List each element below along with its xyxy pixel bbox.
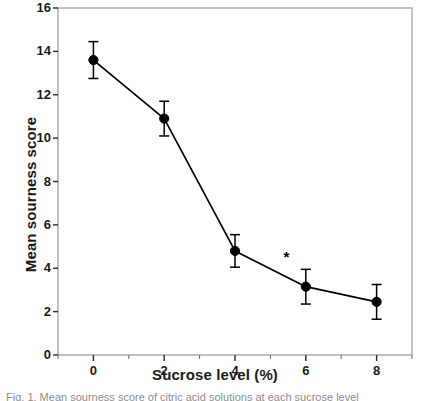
- x-axis-tick-label: 8: [362, 363, 392, 378]
- y-axis-tick-label: 8: [21, 174, 51, 189]
- y-axis-tick-label: 10: [21, 130, 51, 145]
- y-axis-tick-label: 6: [21, 217, 51, 232]
- figure-caption: Fig. 1. Mean sourness score of citric ac…: [6, 391, 430, 401]
- figure-container: * Mean sourness score Sucrose level (%) …: [0, 0, 430, 401]
- y-axis-tick-label: 14: [21, 43, 51, 58]
- x-axis-tick-label: 6: [291, 363, 321, 378]
- x-axis-tick-label: 2: [149, 363, 179, 378]
- chart-plot-area: *: [0, 0, 430, 401]
- y-axis-tick-label: 2: [21, 304, 51, 319]
- x-axis-tick-label: 0: [78, 363, 108, 378]
- y-axis-tick-label: 12: [21, 87, 51, 102]
- y-axis-title: Mean sourness score: [22, 65, 39, 325]
- significance-asterisk-annotation: *: [283, 248, 289, 265]
- x-axis-tick-label: 4: [220, 363, 250, 378]
- y-axis-tick-label: 4: [21, 260, 51, 275]
- y-axis-tick-label: 16: [21, 0, 51, 15]
- y-axis-tick-label: 0: [21, 347, 51, 362]
